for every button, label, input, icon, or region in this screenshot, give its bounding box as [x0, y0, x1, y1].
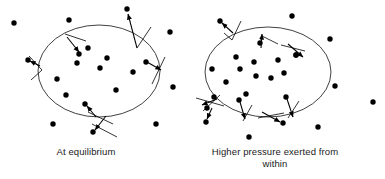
collision-force-vector: [67, 37, 79, 52]
gas-particle: [85, 45, 90, 50]
gas-particle: [280, 120, 285, 125]
collision-force-vector: [240, 102, 245, 119]
gas-particle: [170, 84, 175, 89]
gas-particle: [223, 79, 228, 84]
gas-particle: [275, 57, 280, 62]
gas-particle: [97, 65, 102, 70]
gas-particle: [82, 101, 87, 106]
gas-particle: [153, 121, 158, 126]
gas-particle: [327, 36, 332, 41]
gas-particle: [257, 40, 262, 45]
gas-particle: [124, 6, 129, 11]
gas-particle: [25, 57, 30, 62]
gas-particles-inside-left: [54, 45, 135, 97]
panel-left: [11, 6, 175, 137]
gas-particle: [63, 92, 68, 97]
gas-particle: [104, 55, 109, 60]
gas-particle: [370, 99, 375, 104]
gas-particle: [289, 13, 294, 18]
wall-tick: [288, 101, 299, 118]
gas-particle: [66, 17, 71, 22]
container-wall-right: [205, 27, 331, 117]
gas-particle: [50, 121, 55, 126]
gas-particle: [11, 20, 16, 25]
gas-particle: [281, 70, 286, 75]
gas-particle: [217, 18, 222, 23]
gas-particle: [76, 51, 81, 56]
gas-particles-inside-right: [209, 52, 298, 96]
gas-particle: [90, 129, 95, 134]
wall-tick: [262, 36, 278, 44]
gas-particle: [246, 134, 251, 139]
collision-force-vectors-left: [25, 6, 165, 137]
collision-force-vector: [222, 23, 233, 33]
gas-particle: [253, 73, 258, 78]
gas-particle: [209, 66, 214, 71]
gas-particle: [251, 59, 256, 64]
gas-particle: [237, 66, 242, 71]
gas-particle: [283, 94, 288, 99]
gas-particle: [236, 97, 241, 102]
gas-pressure-figure: At equilibrium Higher pressure exerted f…: [0, 0, 385, 179]
gas-particle: [332, 83, 337, 88]
gas-particle: [204, 105, 209, 110]
panel-right: [196, 13, 376, 139]
caption-right: Higher pressure exerted from within: [205, 146, 345, 169]
wall-tick: [243, 105, 252, 121]
gas-particle: [203, 119, 208, 124]
collision-force-vectors-right: [196, 18, 305, 125]
gas-particles-outside-right: [246, 13, 375, 139]
container-wall-left: [38, 25, 160, 117]
gas-particles-outside-left: [11, 17, 175, 126]
gas-particle: [315, 124, 320, 129]
wall-tick: [281, 45, 305, 51]
gas-particle: [293, 52, 298, 57]
wall-tick: [92, 124, 117, 137]
gas-particle: [54, 76, 59, 81]
gas-particle: [243, 91, 248, 96]
wall-tick: [65, 34, 86, 41]
caption-left: At equilibrium: [26, 146, 146, 158]
gas-particle: [74, 60, 79, 65]
gas-particle: [130, 69, 135, 74]
gas-particle: [167, 29, 172, 34]
gas-particle: [268, 75, 273, 80]
gas-particle: [143, 59, 148, 64]
wall-tick: [224, 21, 241, 40]
gas-particle: [113, 87, 118, 92]
gas-particle: [233, 54, 238, 59]
